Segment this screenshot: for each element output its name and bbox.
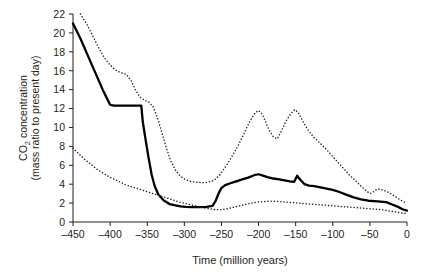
x-tick-label: –350: [136, 228, 160, 240]
x-tick-label: 0: [404, 228, 410, 240]
x-tick-label: –300: [173, 228, 197, 240]
y-tick-label: 12: [53, 102, 65, 114]
chart-canvas: 0246810121416182022 –450–400–350–300–250…: [0, 0, 423, 276]
y-tick-label: 22: [53, 8, 65, 20]
chart-figure: 0246810121416182022 –450–400–350–300–250…: [0, 0, 423, 276]
y-tick-label: 8: [59, 140, 65, 152]
y-tick-label: 4: [59, 178, 65, 190]
y-axis-title-rest: concentration: [17, 75, 29, 141]
x-tick-label: –50: [361, 228, 379, 240]
y-tick-label: 2: [59, 197, 65, 209]
x-tick-label: –450: [61, 228, 85, 240]
y-axis-title-line2: (mass ratio to present day): [29, 56, 41, 181]
x-tick-label: –150: [284, 228, 308, 240]
y-tick-label: 0: [59, 216, 65, 228]
y-tick-label: 14: [53, 83, 65, 95]
y-axis-title-co2: CO: [17, 145, 29, 161]
x-axis-title: Time (million years): [192, 254, 288, 266]
y-tick-label: 18: [53, 46, 65, 58]
y-tick-label: 6: [59, 159, 65, 171]
x-tick-label: –250: [210, 228, 234, 240]
y-tick-label: 20: [53, 27, 65, 39]
x-tick-label: –100: [321, 228, 345, 240]
x-tick-label: –400: [98, 228, 122, 240]
y-tick-label: 10: [53, 121, 65, 133]
x-tick-label: –200: [247, 228, 271, 240]
y-tick-label: 16: [53, 65, 65, 77]
